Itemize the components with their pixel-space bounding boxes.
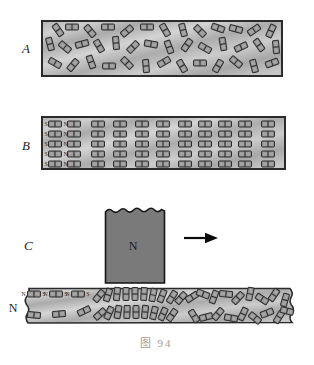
magnetic-domain [219,121,232,127]
pole-label: S [44,151,47,157]
magnetic-domain [239,131,252,137]
figure-caption: 图 94 [140,337,173,349]
page-background: A B SNSNSNSNSN C N N NSNSNS 图 94 [0,0,314,365]
magnetic-domain [68,141,81,147]
magnetic-domain [68,161,81,167]
magnetic-domain [179,131,192,137]
magnetic-domain [179,141,192,147]
magnetic-domain [199,121,212,127]
magnetic-domain [27,311,40,318]
magnetic-domain [157,161,170,167]
magnetic-domain [179,121,192,127]
pole-label: S [44,131,47,137]
panel-b: B SNSNSNSNSN [22,117,285,169]
magnetic-domain [199,131,212,137]
magnetic-domain [157,151,170,157]
magnetic-domain [66,24,79,30]
magnetic-domain [199,141,212,147]
magnetic-domain [219,290,233,297]
magnetic-domain [52,310,65,317]
magnetic-domain [114,151,127,157]
pole-label: S [44,121,47,127]
magnetic-domain [113,287,120,301]
magnetic-domain [142,59,149,72]
magnetic-domain [49,121,62,127]
magnetic-domain [92,151,105,157]
magnetic-domain [114,141,127,147]
magnetic-domain [194,60,207,66]
magnetic-domain [123,288,129,301]
bar-c-outside-pole-label: N [9,301,18,315]
magnetic-domain [92,161,105,167]
magnetic-domain [68,131,81,137]
panel-c: C N N NSNSNS [9,208,294,324]
panel-c-label: C [24,238,33,253]
magnetic-domain [49,141,62,147]
magnetic-domain [124,305,130,318]
panel-a: A [21,21,282,76]
pole-label: S [44,141,47,147]
magnetic-domain [92,121,105,127]
magnetic-domain [133,306,139,319]
motion-arrow [184,233,218,243]
magnetic-domain [219,151,232,157]
pole-label: S [86,291,89,297]
magnetic-domain [136,131,149,137]
magnetic-domain [92,131,105,137]
magnetic-domain [219,141,232,147]
magnetic-domain [262,141,275,147]
magnetic-domain [112,36,119,49]
magnetic-domain [136,151,149,157]
panel-b-label: B [22,138,30,153]
figure-canvas: A B SNSNSNSNSN C N N NSNSNS 图 94 [0,0,314,365]
magnetic-domain [179,161,192,167]
magnetic-domain [262,151,275,157]
magnetic-domain [72,291,85,297]
magnetic-domain [102,24,115,30]
magnetic-domain [68,151,81,157]
magnetic-domain [262,161,275,167]
magnetic-domain [114,131,127,137]
magnetic-domain [141,287,148,300]
magnetic-domain [103,63,116,69]
panel-a-label: A [21,41,30,56]
magnetic-domain [49,151,62,157]
magnetic-domain [92,141,105,147]
magnetic-domain [157,121,170,127]
magnetic-domain [239,121,252,127]
magnetic-domain [199,151,212,157]
magnetic-domain [219,161,232,167]
magnetic-domain [49,161,62,167]
magnetic-domain [239,161,252,167]
magnetic-domain [28,291,41,297]
magnetic-domain [219,131,232,137]
magnetic-domain [262,131,275,137]
magnetic-domain [132,288,138,301]
magnetic-domain [68,121,81,127]
magnetic-domain [157,141,170,147]
magnetic-domain [272,40,279,53]
magnetic-domain [179,151,192,157]
magnetic-domain [199,161,212,167]
magnetic-domain [136,141,149,147]
magnetic-domain [114,121,127,127]
magnetic-domain [114,161,127,167]
pole-label: S [44,161,47,167]
magnetic-domain [49,131,62,137]
magnetic-domain [136,161,149,167]
magnet-pole-label: N [129,239,138,253]
magnetic-domain [239,141,252,147]
magnetic-domain [50,291,63,297]
magnetic-domain [157,131,170,137]
magnetic-domain [136,121,149,127]
magnetic-domain [141,305,148,319]
magnetic-domain [141,24,154,30]
magnetic-domain [262,121,275,127]
magnetic-domain [239,151,252,157]
